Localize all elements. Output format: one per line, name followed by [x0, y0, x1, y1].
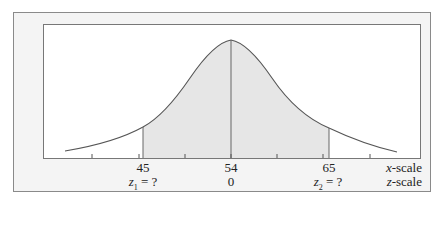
z-scale-label: z-scale — [370, 175, 422, 189]
x-tick-label-45: 45 — [128, 161, 158, 175]
z2-label: z2 = ? — [303, 175, 353, 195]
shaded-area — [143, 40, 329, 158]
z0-label: 0 — [216, 175, 246, 189]
z1-label: z1 = ? — [118, 175, 168, 195]
x-tick-label-65: 65 — [314, 161, 344, 175]
x-scale-label: x-scale — [370, 161, 422, 175]
x-tick-label-54: 54 — [216, 161, 246, 175]
